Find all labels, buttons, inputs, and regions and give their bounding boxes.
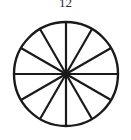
pie-center-point [64, 72, 67, 75]
fraction-circle-figure: 12 [0, 0, 131, 140]
pie-circle-svg [0, 0, 131, 140]
